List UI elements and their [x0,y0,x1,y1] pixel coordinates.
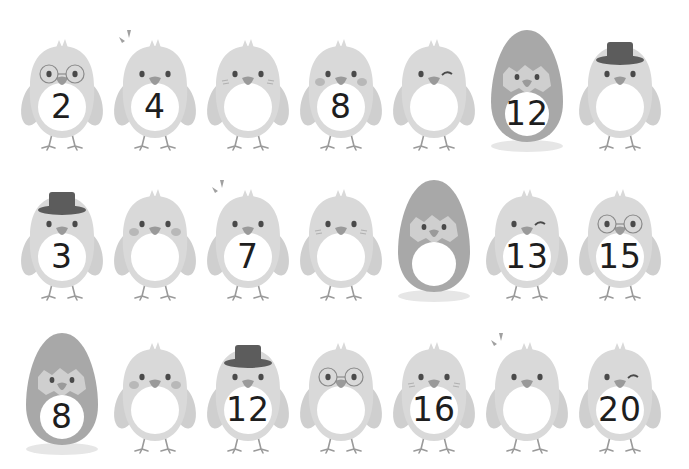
chick-icon [481,325,573,469]
chick-number: 3 [32,237,92,277]
chick-number: 20 [590,390,650,430]
chick-icon: 15 [574,172,666,322]
chick-row-2: 3 7 13 15 [0,172,689,322]
chick-number: 13 [497,237,557,277]
chick-icon: 2 [16,22,108,172]
chick-number: 2 [32,87,92,127]
egg-chick-icon [388,172,480,322]
chick-icon: 4 [109,22,201,172]
chick-number: 7 [218,237,278,277]
chick-icon [295,172,387,322]
chick-icon [295,325,387,469]
surprise-marks-icon [491,333,503,346]
egg-chick-icon: 12 [481,22,573,172]
chick-icon: 12 [202,325,294,469]
chick-number: 12 [218,390,278,430]
chick-icon: 20 [574,325,666,469]
chick-icon [109,172,201,322]
chick-number: 12 [497,94,557,134]
chick-icon [388,22,480,172]
chick-number: 4 [125,87,185,127]
surprise-marks-icon [212,180,224,193]
surprise-marks-icon [119,30,131,43]
chick-icon: 7 [202,172,294,322]
chick-number: 16 [404,390,464,430]
chick-icon: 16 [388,325,480,469]
chick-number: 8 [32,397,92,437]
egg-chick-icon: 8 [16,325,108,469]
chick-icon: 8 [295,22,387,172]
chick-icon [109,325,201,469]
chick-icon [574,22,666,172]
chick-icon: 3 [16,172,108,322]
chick-row-3: 8 12 16 20 [0,325,689,469]
chick-icon: 13 [481,172,573,322]
chick-number: 8 [311,87,371,127]
chick-row-1: 2 4 8 12 [0,22,689,172]
chick-number: 15 [590,237,650,277]
chick-icon [202,22,294,172]
